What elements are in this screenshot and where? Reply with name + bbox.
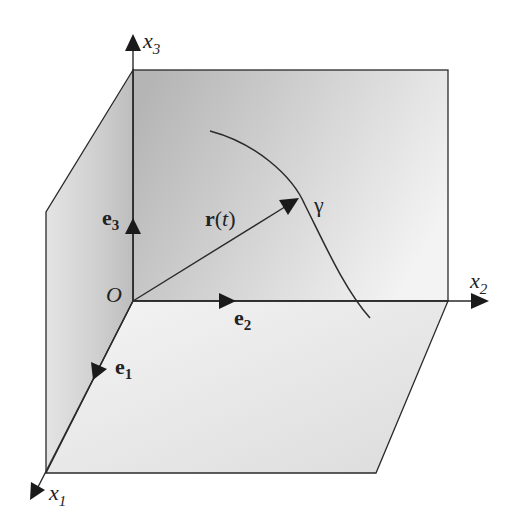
back-plane — [133, 70, 448, 301]
x3-label: x3 — [142, 28, 160, 57]
origin-label: O — [106, 282, 122, 307]
x1-arrow-icon — [30, 482, 45, 500]
x1-label: x1 — [48, 480, 66, 509]
r-of-t-label: r(t) — [205, 206, 236, 231]
x3-arrow-icon — [125, 34, 141, 51]
coordinate-diagram: x3 x2 x1 O e3 e2 e1 r(t) γ — [0, 0, 517, 529]
x2-label: x2 — [469, 268, 488, 297]
gamma-label: γ — [313, 192, 324, 217]
